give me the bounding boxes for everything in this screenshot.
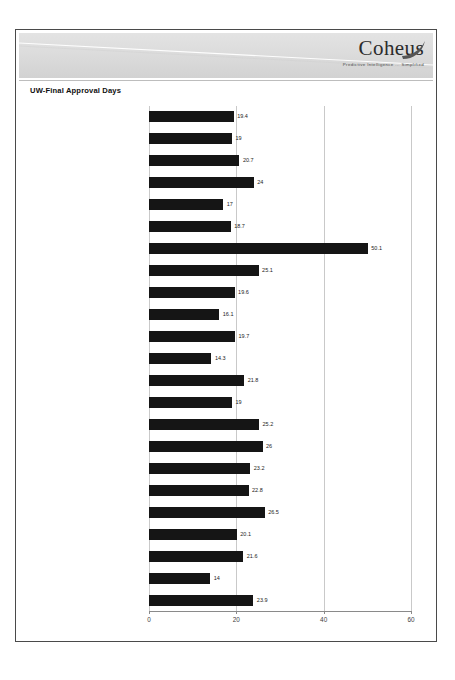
- bar-value-label: 17: [227, 201, 233, 207]
- chart-row: Burton Clark24: [16, 172, 437, 194]
- x-tick: [149, 611, 150, 614]
- bar: [149, 155, 239, 166]
- bar: [149, 507, 265, 518]
- bar: [149, 485, 249, 496]
- bar-value-label: 24: [257, 179, 263, 185]
- bar-value-label: 23.9: [257, 597, 268, 603]
- chart-row: Tracey Cooley14: [16, 567, 437, 589]
- bar: [149, 199, 223, 210]
- x-tick: [324, 611, 325, 614]
- bar-value-label: 26.5: [268, 509, 279, 515]
- chart-row: Jeannette Odom14.3: [16, 348, 437, 370]
- bar: [149, 309, 219, 320]
- chart-row: Bettie Gordon20.7: [16, 150, 437, 172]
- x-axis-line: [149, 611, 411, 612]
- header-divider: [19, 80, 433, 81]
- chart-row: Noreen Liza Hester26.5: [16, 501, 437, 523]
- x-tick: [411, 611, 412, 614]
- bar: [149, 221, 231, 232]
- chart-row: Genaro Giles Vang16.1: [16, 304, 437, 326]
- chart-row: Clark Daniels17: [16, 194, 437, 216]
- x-tick: [236, 611, 237, 614]
- chart-row: Hillary Burnett19.7: [16, 326, 437, 348]
- bar-value-label: 19: [235, 399, 241, 405]
- chart-row: Cleo Alec Hanson18.7: [16, 216, 437, 238]
- bar: [149, 331, 235, 342]
- bar-chart: 0204060Audra Whitney19.4Betsy Hopper19Be…: [16, 102, 437, 640]
- bar-value-label: 26: [266, 443, 272, 449]
- bar: [149, 573, 210, 584]
- chart-row: Nettie D Burns23.2: [16, 457, 437, 479]
- bar-value-label: 20.1: [240, 531, 251, 537]
- page-title: UW-Final Approval Days: [30, 86, 121, 95]
- chart-row: Betsy Hopper19: [16, 128, 437, 150]
- bar-value-label: 25.1: [262, 267, 273, 273]
- bar: [149, 595, 253, 606]
- bar-value-label: 22.8: [252, 487, 263, 493]
- chart-row: Fannie Howard19.6: [16, 282, 437, 304]
- bar-value-label: 19.6: [238, 289, 249, 295]
- chart-row: Melvin D Dodson25.2: [16, 413, 437, 435]
- chart-row: Audra Whitney19.4: [16, 106, 437, 128]
- bar-value-label: 14.3: [215, 355, 226, 361]
- x-tick-label: 40: [320, 616, 327, 623]
- chart-row: Cleo Dominguez50.1: [16, 238, 437, 260]
- bar-value-label: 50.1: [371, 245, 382, 251]
- bar: [149, 353, 211, 364]
- x-tick-label: 60: [407, 616, 414, 623]
- bar-value-label: 14: [214, 575, 220, 581]
- bar: [149, 375, 244, 386]
- bar-value-label: 16.1: [223, 311, 234, 317]
- bar-value-label: 18.7: [234, 223, 245, 229]
- chart-row: Cyrus Weeks25.1: [16, 260, 437, 282]
- bar: [149, 243, 368, 254]
- chart-row: Julian Holt19: [16, 391, 437, 413]
- bar: [149, 441, 263, 452]
- bar: [149, 419, 259, 430]
- bar-value-label: 19.7: [239, 333, 250, 339]
- bar-value-label: 19.4: [237, 113, 248, 119]
- bar-value-label: 25.2: [263, 421, 274, 427]
- leaf-flourish-icon: [400, 39, 426, 61]
- logo-tagline: Predictive Intelligence ... Simplified: [343, 62, 424, 67]
- bar-value-label: 19: [235, 135, 241, 141]
- bar: [149, 111, 234, 122]
- chart-row: Rosendo Matthews21.6: [16, 545, 437, 567]
- x-tick-label: 20: [233, 616, 240, 623]
- chart-row: Josephine Howe21.8: [16, 369, 437, 391]
- bar: [149, 397, 232, 408]
- bar: [149, 265, 259, 276]
- x-tick-label: 0: [147, 616, 151, 623]
- bar: [149, 529, 237, 540]
- bar: [149, 463, 250, 474]
- bar-value-label: 21.6: [247, 553, 258, 559]
- chart-row: Wendi Anderson23.9: [16, 589, 437, 611]
- chart-row: Mollie Christian26: [16, 435, 437, 457]
- bar-value-label: 21.8: [248, 377, 259, 383]
- bar: [149, 133, 232, 144]
- chart-row: Nora Sykes22.8: [16, 479, 437, 501]
- chart-row: Olive Silva20.1: [16, 523, 437, 545]
- coheus-logo: Coheus Predictive Intelligence ... Simpl…: [343, 37, 424, 67]
- bar-value-label: 20.7: [243, 157, 254, 163]
- bar: [149, 177, 254, 188]
- bar: [149, 287, 235, 298]
- report-header-band: Coheus Predictive Intelligence ... Simpl…: [19, 33, 433, 78]
- bar: [149, 551, 243, 562]
- report-page: Coheus Predictive Intelligence ... Simpl…: [15, 29, 437, 642]
- bar-value-label: 23.2: [254, 465, 265, 471]
